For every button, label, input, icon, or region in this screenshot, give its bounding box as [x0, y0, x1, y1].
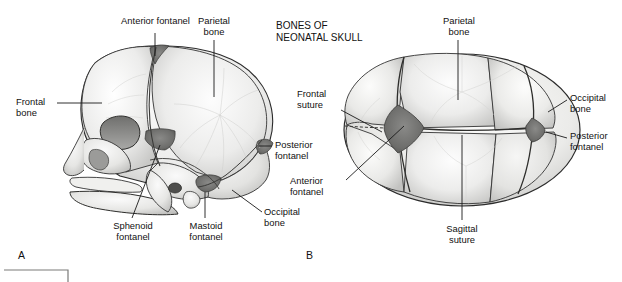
page-rule-fragment	[4, 270, 68, 282]
panel-label-b: B	[306, 249, 313, 261]
label-sagittal-suture-b: Sagittal suture	[434, 224, 490, 245]
label-occipital-bone-a: Occipital bone	[264, 207, 316, 228]
panel-b-skull-superior	[341, 40, 580, 220]
acoustic-meatus-a	[169, 183, 182, 193]
label-parietal-bone-a: Parietal bone	[185, 16, 243, 37]
nasal-profile-a	[64, 128, 84, 176]
figure-neonatal-skull: BONES OF NEONATAL SKULL Anterior fontane…	[0, 0, 622, 282]
label-occipital-bone-b: Occipital bone	[570, 93, 622, 114]
label-parietal-bone-b: Parietal bone	[430, 16, 488, 37]
panel-a-skull-lateral	[57, 33, 273, 218]
label-sphenoid-fontanel-a: Sphenoid fontanel	[104, 221, 162, 242]
label-frontal-bone-a: Frontal bone	[16, 97, 62, 118]
figure-title: BONES OF NEONATAL SKULL	[276, 20, 363, 44]
label-posterior-fontanel-a: Posterior fontanel	[275, 140, 333, 161]
label-posterior-fontanel-b: Posterior fontanel	[570, 131, 622, 152]
maxillary-alveolus-a	[70, 177, 142, 192]
label-anterior-fontanel-b: Anterior fontanel	[290, 176, 346, 197]
panel-label-a: A	[18, 249, 25, 261]
parietal-lower-left-b	[404, 132, 496, 204]
label-mastoid-fontanel-a: Mastoid fontanel	[178, 221, 234, 242]
label-frontal-suture-b: Frontal suture	[297, 89, 343, 110]
